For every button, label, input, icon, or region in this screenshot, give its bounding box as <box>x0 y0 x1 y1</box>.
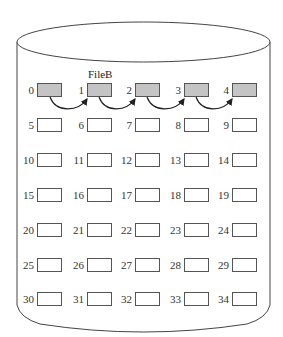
disk-cylinder <box>0 0 283 337</box>
block-number: 18 <box>165 188 181 202</box>
block-number: 24 <box>213 223 229 237</box>
block-number: 10 <box>18 153 34 167</box>
block-number: 17 <box>116 188 132 202</box>
disk-block-free <box>37 223 62 237</box>
disk-block-used <box>37 83 62 97</box>
disk-block-free <box>232 153 257 167</box>
block-number: 13 <box>165 153 181 167</box>
block-number: 3 <box>165 83 181 97</box>
block-number: 0 <box>18 83 34 97</box>
disk-block-free <box>37 258 62 272</box>
disk-block-free <box>232 188 257 202</box>
block-number: 5 <box>18 118 34 132</box>
disk-block-free <box>232 292 257 306</box>
disk-block-free <box>184 292 209 306</box>
block-number: 8 <box>165 118 181 132</box>
block-number: 21 <box>68 223 84 237</box>
disk-block-free <box>135 118 160 132</box>
block-number: 16 <box>68 188 84 202</box>
disk-block-used <box>135 83 160 97</box>
block-number: 1 <box>68 83 84 97</box>
block-number: 4 <box>213 83 229 97</box>
block-number: 6 <box>68 118 84 132</box>
disk-block-free <box>184 188 209 202</box>
disk-block-free <box>184 153 209 167</box>
disk-block-free <box>87 153 112 167</box>
disk-block-free <box>37 153 62 167</box>
disk-block-free <box>87 292 112 306</box>
block-number: 14 <box>213 153 229 167</box>
disk-block-free <box>184 118 209 132</box>
disk-block-free <box>135 188 160 202</box>
disk-block-free <box>184 223 209 237</box>
disk-block-free <box>232 223 257 237</box>
block-number: 20 <box>18 223 34 237</box>
disk-block-free <box>37 118 62 132</box>
disk-block-free <box>232 118 257 132</box>
block-number: 12 <box>116 153 132 167</box>
disk-block-free <box>87 223 112 237</box>
block-number: 28 <box>165 258 181 272</box>
block-number: 11 <box>68 153 84 167</box>
block-number: 2 <box>116 83 132 97</box>
disk-block-free <box>87 258 112 272</box>
block-number: 25 <box>18 258 34 272</box>
block-number: 30 <box>18 292 34 306</box>
disk-block-free <box>87 188 112 202</box>
block-number: 31 <box>68 292 84 306</box>
block-number: 26 <box>68 258 84 272</box>
block-number: 34 <box>213 292 229 306</box>
block-number: 23 <box>165 223 181 237</box>
block-number: 9 <box>213 118 229 132</box>
disk-block-free <box>135 292 160 306</box>
disk-block-free <box>184 258 209 272</box>
disk-block-free <box>232 258 257 272</box>
block-number: 32 <box>116 292 132 306</box>
block-number: 27 <box>116 258 132 272</box>
block-number: 22 <box>116 223 132 237</box>
disk-block-free <box>87 118 112 132</box>
disk-block-used <box>232 83 257 97</box>
disk-block-free <box>135 153 160 167</box>
block-number: 19 <box>213 188 229 202</box>
disk-block-free <box>37 292 62 306</box>
disk-block-free <box>135 258 160 272</box>
block-number: 29 <box>213 258 229 272</box>
disk-block-used <box>87 83 112 97</box>
file-link-arrows <box>50 97 232 109</box>
disk-block-free <box>37 188 62 202</box>
disk-block-used <box>184 83 209 97</box>
block-number: 7 <box>116 118 132 132</box>
block-number: 15 <box>18 188 34 202</box>
disk-block-free <box>135 223 160 237</box>
file-label: FileB <box>88 68 112 80</box>
block-number: 33 <box>165 292 181 306</box>
